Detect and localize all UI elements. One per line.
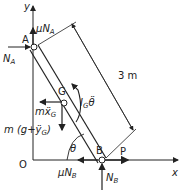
- force-muNA-label: μNA: [35, 23, 55, 36]
- y-axis-label: y: [23, 1, 31, 12]
- ladder-fbd-diagram: 3 m NA μNA A y x O G mẍG m (g+ÿG) IGθ̈ θ…: [0, 0, 183, 192]
- pin-B: [99, 157, 105, 163]
- force-NB-label: NB: [106, 172, 118, 185]
- point-G-label: G: [58, 86, 66, 97]
- point-A-label: A: [22, 34, 29, 45]
- weight-label: m (g+ÿG): [4, 124, 51, 137]
- x-axis-label: x: [171, 167, 178, 178]
- force-P-label: P: [120, 146, 126, 157]
- origin-label: O: [19, 159, 27, 170]
- force-muNB-label: μNB: [57, 167, 77, 180]
- inertia-x-label: mẍG: [35, 106, 57, 119]
- length-label: 3 m: [118, 70, 137, 81]
- angle-label: θ: [70, 143, 76, 154]
- force-NA-label: NA: [3, 53, 15, 66]
- moment-label: IGθ̈: [80, 96, 95, 110]
- point-B-label: B: [96, 145, 103, 156]
- pin-A: [31, 44, 37, 50]
